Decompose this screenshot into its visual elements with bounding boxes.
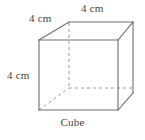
- hidden-edges-group: [39, 23, 133, 110]
- edge-top-left-diagonal: [39, 22, 69, 40]
- dimension-label-width: 4 cm: [81, 2, 104, 14]
- hidden-edge-bottom-left-diagonal: [39, 88, 69, 110]
- visible-edges-group: [39, 22, 133, 110]
- edge-top-right-diagonal: [118, 22, 133, 40]
- cube-figure: 4 cm 4 cm 4 cm Cube: [0, 0, 145, 140]
- dimension-label-depth: 4 cm: [29, 12, 52, 24]
- dimension-label-height: 4 cm: [7, 69, 30, 81]
- figure-caption: Cube: [0, 116, 145, 129]
- edge-bottom-right-diagonal: [118, 93, 133, 110]
